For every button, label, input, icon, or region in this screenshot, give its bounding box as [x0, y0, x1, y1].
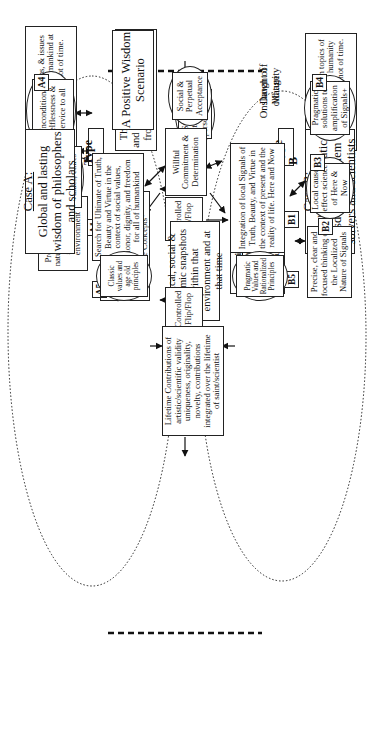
b4-tag: B4 — [312, 74, 327, 91]
scenario-title-box: A Positive Wisdom Scenario — [112, 30, 154, 130]
lifetime-contributions-node: Lifetime Contributions of artistic/scien… — [162, 326, 224, 436]
b5-node: Integration of local Signals of Truth, B… — [230, 143, 285, 253]
a4-tag: A4 — [34, 74, 49, 91]
case-a-heading: Case A: — [21, 172, 35, 211]
classic-values-node: Classic values and age old principles — [100, 255, 148, 297]
b3-tag-text: B3 — [313, 157, 323, 168]
b4-tag-text: B4 — [315, 77, 325, 88]
scenario-title-text: A Positive Wisdom Scenario — [119, 31, 148, 129]
a5-text: Search for Ultimate of Truth, Beauty and… — [94, 156, 142, 258]
b1-tag: B1 — [284, 211, 299, 228]
onslaught-label: Onslaught of old age — [258, 61, 282, 121]
a4-tag-text: A4 — [37, 77, 47, 89]
b5-text: Integration of local Signals of Truth, B… — [238, 146, 277, 250]
onslaught-text: Onslaught of old age — [258, 64, 281, 119]
pragmatic-values-text: Pragmatic Values and Rationalized Princi… — [244, 256, 276, 296]
acceptance-node: Social & Perpetual Acceptance — [172, 72, 208, 120]
b2-tag: B2 — [318, 218, 333, 235]
case-a-text: Global and lasting wisdom of philosopher… — [36, 130, 79, 253]
case-a-box: Case A: Global and lasting wisdom of phi… — [25, 129, 75, 254]
lifetime-text: Lifetime Contributions of artistic/scien… — [164, 330, 222, 432]
b2-node: Precise, clear and focused thinking on t… — [307, 226, 352, 298]
b3-text: Local cause-effect science of Here & Now — [311, 164, 350, 212]
commitment-node: Willful Commitment & Determination — [165, 128, 207, 196]
b2-text: Precise, clear and focused thinking on t… — [310, 227, 349, 297]
classic-values-text: Classic values and age old principles — [108, 256, 140, 296]
pragmatic-values-node: Pragmatic Values and Rationalized Princi… — [236, 255, 284, 297]
b1-tag-text: B1 — [287, 214, 297, 225]
wisdom-scenario-diagram: * Concepts, concerns, & issues of import… — [0, 0, 381, 741]
acceptance-text: Social & Perpetual Acceptance — [176, 73, 205, 119]
flip-flop-right-node: Controlled Flip/Flop — [165, 287, 203, 331]
b5-tag-text: B5 — [287, 274, 297, 285]
commitment-text: Willful Commitment & Determination — [172, 129, 201, 195]
a5-node: Search for Ultimate of Truth, Beauty and… — [92, 153, 144, 261]
b3-tag: B3 — [310, 154, 325, 171]
flip-flop-right-text: Controlled Flip/Flop — [174, 288, 193, 330]
b2-tag-text: B2 — [321, 221, 331, 232]
